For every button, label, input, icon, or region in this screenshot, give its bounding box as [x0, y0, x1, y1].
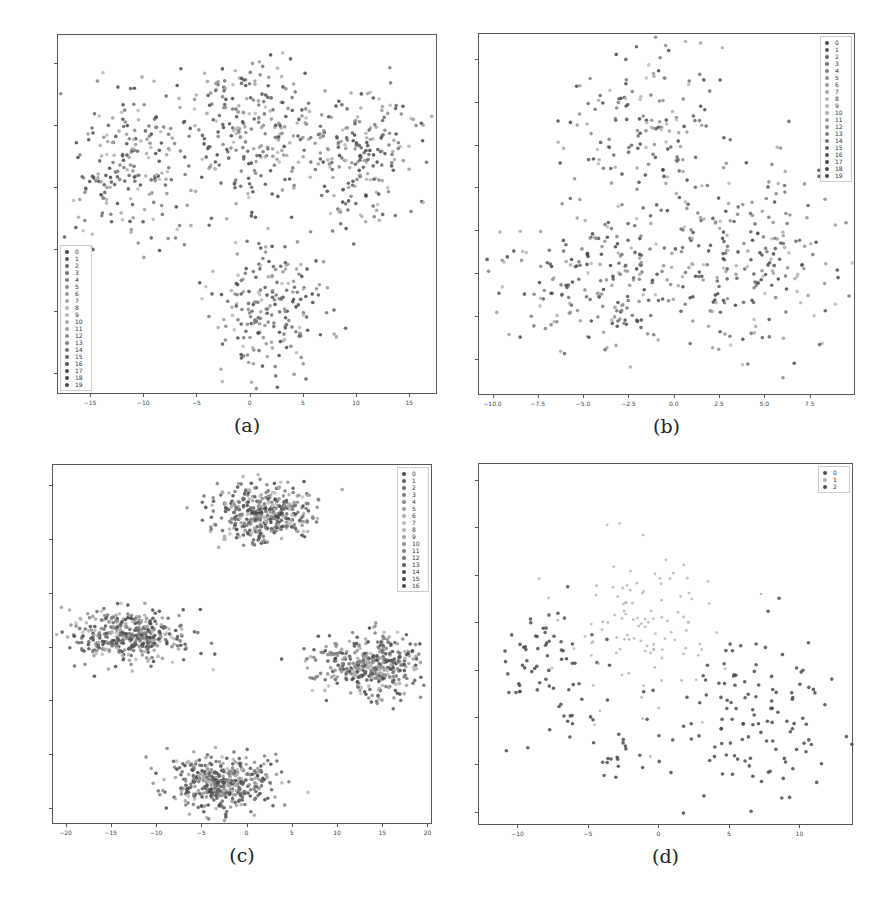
x-tick-mark	[719, 395, 720, 398]
legend-entry: 12	[65, 332, 87, 339]
y-tick-mark	[475, 316, 478, 317]
legend-label: 9	[835, 102, 839, 109]
legend-entry: 19	[825, 172, 847, 179]
legend-entry: 7	[65, 297, 87, 304]
legend-entry: 10	[402, 540, 424, 547]
y-tick-mark	[49, 700, 52, 701]
legend-marker-icon	[65, 376, 69, 380]
legend-entry: 17	[65, 367, 87, 374]
legend-label: 0	[833, 469, 837, 476]
x-tick-label: 5	[727, 830, 731, 837]
legend-label: 0	[412, 470, 416, 477]
x-tick-label: 7.5	[805, 400, 815, 407]
legend-label: 16	[835, 151, 843, 158]
legend: 012345678910111213141516	[397, 467, 429, 592]
legend-marker-icon	[825, 125, 829, 129]
x-tick-mark	[517, 825, 518, 828]
legend-label: 1	[412, 477, 416, 484]
legend-entry: 10	[65, 318, 87, 325]
y-tick-mark	[475, 145, 478, 146]
legend-entry: 6	[65, 290, 87, 297]
legend-label: 7	[412, 519, 416, 526]
legend-entry: 0	[402, 470, 424, 477]
legend-marker-icon	[65, 355, 69, 359]
legend-marker-icon	[402, 493, 406, 497]
x-tick-label: 10	[796, 830, 804, 837]
x-tick-label: 0	[657, 830, 661, 837]
x-tick-label: 2.5	[714, 400, 724, 407]
scatter-points	[479, 464, 854, 826]
x-tick-mark	[658, 825, 659, 828]
legend-label: 11	[412, 547, 420, 554]
x-tick-label: −10	[511, 830, 524, 837]
legend-marker-icon	[825, 97, 829, 101]
x-tick-label: −2.5	[621, 400, 636, 407]
legend-label: 9	[412, 533, 416, 540]
legend-label: 10	[835, 109, 843, 116]
x-tick-mark	[247, 824, 248, 827]
x-tick-mark	[111, 824, 112, 827]
legend-label: 11	[75, 325, 83, 332]
legend-entry: 2	[823, 483, 845, 490]
legend-label: 12	[835, 123, 843, 130]
legend-marker-icon	[825, 132, 829, 136]
x-tick-mark	[303, 394, 304, 397]
legend-label: 17	[835, 158, 843, 165]
x-tick-mark	[427, 824, 428, 827]
legend-label: 13	[412, 561, 420, 568]
legend-label: 6	[412, 512, 416, 519]
scatter-points	[58, 35, 438, 395]
legend-marker-icon	[825, 69, 829, 73]
legend-entry: 14	[825, 137, 847, 144]
x-tick-label: 5	[290, 829, 294, 836]
legend-label: 2	[833, 483, 837, 490]
legend-marker-icon	[823, 485, 827, 489]
legend-marker-icon	[65, 271, 69, 275]
legend-entry: 9	[402, 533, 424, 540]
legend-marker-icon	[402, 535, 406, 539]
legend-label: 0	[75, 248, 79, 255]
legend-marker-icon	[402, 479, 406, 483]
legend-entry: 4	[402, 498, 424, 505]
legend-label: 15	[835, 144, 843, 151]
x-tick-label: −15	[84, 399, 97, 406]
y-tick-mark	[49, 539, 52, 540]
legend-marker-icon	[402, 549, 406, 553]
legend-entry: 14	[402, 568, 424, 575]
x-tick-mark	[90, 394, 91, 397]
legend-label: 17	[75, 367, 83, 374]
legend-entry: 3	[402, 491, 424, 498]
x-tick-label: 0	[245, 829, 249, 836]
legend-marker-icon	[402, 507, 406, 511]
y-tick-mark	[49, 593, 52, 594]
x-tick-mark	[493, 395, 494, 398]
legend-entry: 11	[65, 325, 87, 332]
x-tick-mark	[409, 394, 410, 397]
legend-label: 4	[412, 498, 416, 505]
legend-entry: 8	[825, 95, 847, 102]
legend-marker-icon	[65, 383, 69, 387]
legend-entry: 5	[65, 283, 87, 290]
legend-marker-icon	[825, 153, 829, 157]
legend-marker-icon	[65, 341, 69, 345]
legend: 012345678910111213141516171819	[60, 245, 92, 391]
legend-entry: 15	[825, 144, 847, 151]
legend-label: 4	[835, 67, 839, 74]
x-tick-label: 5.0	[760, 400, 770, 407]
legend-marker-icon	[825, 83, 829, 87]
legend-entry: 15	[65, 353, 87, 360]
legend-label: 8	[412, 526, 416, 533]
subfigure-caption: (a)	[234, 414, 260, 436]
legend-label: 5	[412, 505, 416, 512]
legend-label: 14	[835, 137, 843, 144]
legend-entry: 0	[65, 248, 87, 255]
legend-marker-icon	[65, 306, 69, 310]
legend-label: 18	[75, 374, 83, 381]
x-tick-label: −5	[192, 399, 201, 406]
x-tick-label: −10.0	[483, 400, 501, 407]
legend-entry: 3	[65, 269, 87, 276]
legend-marker-icon	[825, 139, 829, 143]
legend-label: 3	[75, 269, 79, 276]
legend-marker-icon	[825, 76, 829, 80]
legend-marker-icon	[825, 146, 829, 150]
